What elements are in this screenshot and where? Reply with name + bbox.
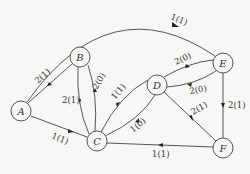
arrow-d-c-icon <box>116 102 120 107</box>
edge-label-a-c: 1(1) <box>50 131 70 147</box>
node-b: B <box>70 47 90 67</box>
edge-label-f-c: 1(1) <box>152 149 169 159</box>
node-c: C <box>87 131 107 151</box>
arrow-a-c-icon <box>68 129 74 133</box>
node-d: D <box>147 75 167 95</box>
edge-label-e-f: 2(1) <box>228 100 245 110</box>
edge-label-d-f: 2(1) <box>189 99 209 116</box>
svg-text:E: E <box>218 58 227 69</box>
node-f: F <box>213 138 233 158</box>
edge-label-b-c: 2(1) <box>62 95 79 105</box>
node-e: E <box>213 53 233 73</box>
svg-text:B: B <box>75 52 83 63</box>
svg-text:D: D <box>152 80 161 91</box>
edge-label-e-d: 2(0) <box>189 83 208 96</box>
node-a: A <box>11 101 31 121</box>
edge-label-d-e: 2(0) <box>173 50 193 66</box>
arrow-f-c-icon <box>158 143 163 147</box>
arrow-d-e-icon <box>185 64 190 68</box>
edge-label-c-d: 1(0) <box>128 116 148 135</box>
svg-text:F: F <box>219 143 228 154</box>
edge-d-e <box>164 60 213 77</box>
edges: 1(1) 2(1) 1(1) 2(1) 2(0) 1(1) 1(0) 2(0) <box>27 12 245 159</box>
edge-c-b <box>88 65 96 131</box>
svg-text:A: A <box>16 106 24 117</box>
svg-text:C: C <box>93 136 101 147</box>
flow-network-diagram: 1(1) 2(1) 1(1) 2(1) 2(0) 1(1) 1(0) 2(0) <box>0 0 250 174</box>
arrow-e-f-icon <box>221 103 225 108</box>
edge-label-d-c: 1(1) <box>109 81 128 101</box>
edge-label-c-b: 2(0) <box>90 71 107 91</box>
